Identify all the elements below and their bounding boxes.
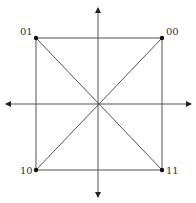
label-10: 10: [20, 166, 33, 176]
point-10: [34, 168, 38, 172]
point-01: [34, 36, 38, 40]
point-00: [160, 36, 164, 40]
label-01: 01: [20, 27, 33, 37]
point-11: [160, 168, 164, 172]
label-00: 00: [166, 27, 179, 37]
label-11: 11: [166, 166, 179, 176]
